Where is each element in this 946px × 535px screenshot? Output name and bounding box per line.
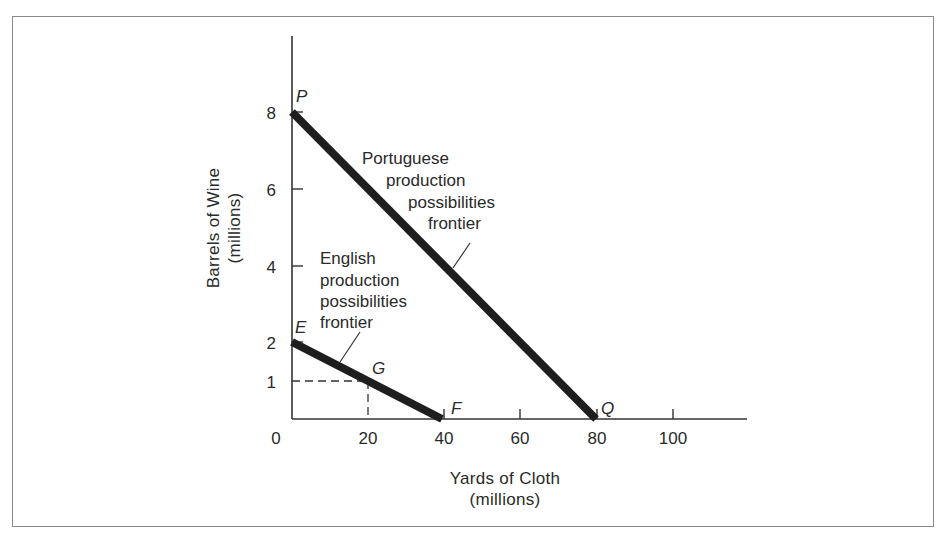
y-tick-label-2: 2 (267, 334, 276, 353)
point-label-e: E (295, 318, 307, 337)
y-ticks (292, 112, 303, 342)
x-ticks (444, 409, 673, 419)
point-label-g: G (372, 359, 385, 378)
svg-text:frontier: frontier (320, 313, 373, 332)
x-tick-label-40: 40 (435, 429, 454, 448)
x-tick-label-60: 60 (511, 429, 530, 448)
svg-text:possibilities: possibilities (320, 292, 407, 311)
x-axis-units: (millions) (470, 490, 541, 509)
point-label-f: F (451, 399, 463, 418)
y-axis-title: Barrels of Wine (204, 168, 223, 289)
origin-label: 0 (271, 429, 280, 448)
y-tick-label-1: 1 (267, 373, 276, 392)
y-tick-label-4: 4 (267, 258, 276, 277)
y-tick-label-8: 8 (267, 104, 276, 123)
x-tick-label-100: 100 (659, 429, 687, 448)
point-label-q: Q (601, 399, 614, 418)
x-tick-label-80: 80 (588, 429, 607, 448)
x-tick-label-20: 20 (359, 429, 378, 448)
english-leader-line (340, 332, 360, 362)
svg-text:Portuguese: Portuguese (362, 149, 449, 168)
english-frontier-line (292, 342, 442, 419)
ppf-chart: 8 6 4 2 1 0 20 40 60 80 100 P Q E F G Po… (0, 0, 946, 535)
x-axis-title: Yards of Cloth (450, 469, 561, 488)
english-frontier-annotation: English production possibilities frontie… (320, 249, 407, 332)
portuguese-frontier-annotation: Portuguese production possibilities fron… (362, 149, 495, 233)
portuguese-leader-line (453, 243, 470, 268)
svg-text:production: production (386, 171, 465, 190)
svg-text:frontier: frontier (428, 214, 481, 233)
svg-text:possibilities: possibilities (408, 193, 495, 212)
svg-text:English: English (320, 249, 376, 268)
point-label-p: P (296, 87, 308, 106)
svg-text:production: production (320, 271, 399, 290)
y-axis-title-group: Barrels of Wine (millions) (204, 168, 244, 289)
y-tick-label-6: 6 (267, 181, 276, 200)
y-axis-units: (millions) (225, 193, 244, 264)
